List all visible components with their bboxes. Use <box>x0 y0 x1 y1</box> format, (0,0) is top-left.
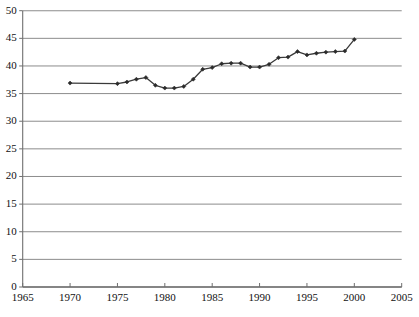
y-tick-label: 50 <box>0 5 17 16</box>
data-point-marker <box>229 61 233 65</box>
data-point-marker <box>220 62 224 66</box>
x-tick-label: 1970 <box>50 292 90 303</box>
x-tick-label: 2000 <box>334 292 374 303</box>
data-point-marker <box>239 61 243 65</box>
data-point-marker <box>305 53 309 57</box>
x-tick-label: 1965 <box>3 292 43 303</box>
data-point-marker <box>324 50 328 54</box>
x-tick-label: 2005 <box>382 292 419 303</box>
y-tick-label: 20 <box>0 170 17 181</box>
y-tick-label: 5 <box>0 253 17 264</box>
data-point-marker <box>172 86 176 90</box>
data-series-line <box>70 39 354 88</box>
y-tick-label: 25 <box>0 143 17 154</box>
y-tick-label: 45 <box>0 32 17 43</box>
x-tick-label: 1975 <box>97 292 137 303</box>
chart-canvas <box>0 0 419 317</box>
data-point-marker <box>333 50 337 54</box>
data-point-marker <box>314 51 318 55</box>
data-point-marker <box>115 82 119 86</box>
data-point-marker <box>125 80 129 84</box>
x-tick-label: 1995 <box>287 292 327 303</box>
x-tick-label: 1980 <box>145 292 185 303</box>
y-tick-label: 40 <box>0 60 17 71</box>
data-point-marker <box>68 81 72 85</box>
data-point-markers <box>68 37 356 90</box>
y-tick-label: 35 <box>0 88 17 99</box>
data-point-marker <box>134 77 138 81</box>
x-tick-label: 1985 <box>192 292 232 303</box>
y-tick-label: 30 <box>0 115 17 126</box>
data-point-marker <box>163 86 167 90</box>
y-tick-label: 15 <box>0 198 17 209</box>
y-tick-label: 10 <box>0 226 17 237</box>
x-tick-label: 1990 <box>240 292 280 303</box>
line-chart: 05101520253035404550 1965197019751980198… <box>0 0 419 317</box>
